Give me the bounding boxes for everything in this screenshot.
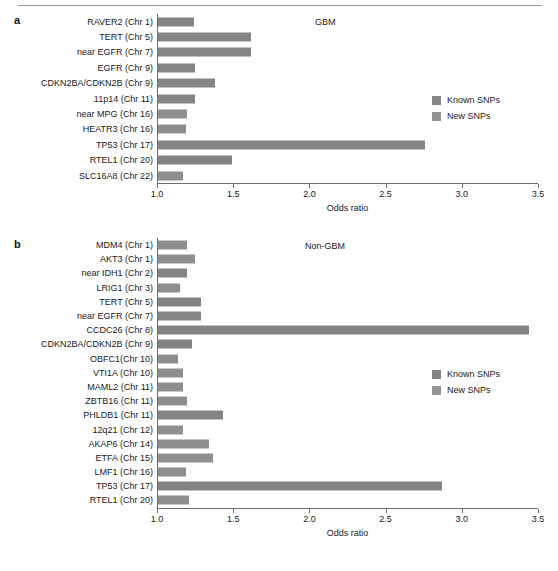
bar-row: PHLDB1 (Chr 11) bbox=[157, 408, 538, 422]
figure-root: a GBM RAVER2 (Chr 1)TERT (Chr 5)near EGF… bbox=[0, 0, 558, 571]
bar-row: RTEL1 (Chr 20) bbox=[157, 493, 538, 507]
x-axis-tick bbox=[309, 184, 310, 188]
bar-row-label: EGFR (Chr 9) bbox=[97, 63, 153, 73]
x-axis-tick bbox=[462, 184, 463, 188]
bar-row-label: 11p14 (Chr 11) bbox=[94, 94, 153, 104]
bar-row: AKAP6 (Chr 14) bbox=[157, 437, 538, 451]
bar-row: TP53 (Chr 17) bbox=[157, 479, 538, 493]
x-axis-tick-label: 1.0 bbox=[151, 189, 164, 199]
panel-b-x-axis bbox=[157, 508, 538, 509]
bar bbox=[157, 283, 180, 292]
bar bbox=[157, 48, 251, 57]
x-axis-tick-label: 1.0 bbox=[151, 514, 164, 524]
bar-row: AKT3 (Chr 1) bbox=[157, 252, 538, 266]
bar bbox=[157, 496, 189, 505]
x-axis-tick-label: 1.5 bbox=[227, 189, 240, 199]
bar-row: ETFA (Chr 15) bbox=[157, 451, 538, 465]
legend-item-new: New SNPs bbox=[432, 382, 500, 398]
bar bbox=[157, 354, 178, 363]
bar bbox=[157, 110, 187, 119]
bar-row-label: MAML2 (Chr 11) bbox=[87, 382, 153, 392]
legend-item-known: Known SNPs bbox=[432, 366, 500, 382]
bar bbox=[157, 368, 183, 377]
panel-b-legend: Known SNPs New SNPs bbox=[432, 366, 500, 398]
bar-row: RTEL1 (Chr 20) bbox=[157, 153, 538, 168]
bar-row: near EGFR (Chr 7) bbox=[157, 45, 538, 60]
x-axis-tick-label: 2.0 bbox=[303, 189, 316, 199]
bar-row-label: SLC16A8 (Chr 22) bbox=[79, 171, 153, 181]
bar-row-label: MDM4 (Chr 1) bbox=[96, 240, 153, 250]
x-axis-tick bbox=[538, 509, 539, 513]
bar-row: near IDH1 (Chr 2) bbox=[157, 266, 538, 280]
bar bbox=[157, 340, 192, 349]
bar-row-label: near MPG (Chr 16) bbox=[76, 109, 153, 119]
x-axis-title: Odds ratio bbox=[327, 203, 369, 213]
bar-row-label: PHLDB1 (Chr 11) bbox=[83, 410, 153, 420]
x-axis-tick-label: 2.5 bbox=[379, 514, 392, 524]
bar bbox=[157, 397, 187, 406]
bar bbox=[157, 468, 186, 477]
bar-row-label: TERT (Chr 5) bbox=[99, 297, 153, 307]
new-snps-swatch-icon bbox=[432, 386, 441, 395]
bar-row: LRIG1 (Chr 3) bbox=[157, 281, 538, 295]
bar bbox=[157, 79, 215, 88]
bar-row: 12q21 (Chr 12) bbox=[157, 422, 538, 436]
legend-label-known: Known SNPs bbox=[447, 95, 500, 105]
bar-row: SLC16A8 (Chr 22) bbox=[157, 168, 538, 183]
x-axis-tick bbox=[157, 184, 158, 188]
bar bbox=[157, 382, 183, 391]
x-axis-tick bbox=[309, 509, 310, 513]
bar-row: EGFR (Chr 9) bbox=[157, 60, 538, 75]
known-snps-swatch-icon bbox=[432, 370, 441, 379]
x-axis-tick-label: 3.5 bbox=[532, 189, 545, 199]
bar-row-label: CDKN2BA/CDKN2B (Chr 9) bbox=[41, 78, 153, 88]
bar bbox=[157, 326, 529, 335]
bar-row: TERT (Chr 5) bbox=[157, 29, 538, 44]
bar-row-label: AKT3 (Chr 1) bbox=[100, 254, 153, 264]
bar-row: CDKN2BA/CDKN2B (Chr 9) bbox=[157, 337, 538, 351]
x-axis-tick-label: 3.0 bbox=[456, 514, 469, 524]
bar-row-label: ZBTB16 (Chr 11) bbox=[85, 396, 153, 406]
x-axis-tick-label: 2.5 bbox=[379, 189, 392, 199]
x-axis-tick bbox=[233, 509, 234, 513]
panel-b: b Non-GBM MDM4 (Chr 1)AKT3 (Chr 1)near I… bbox=[0, 238, 558, 563]
bar bbox=[157, 425, 183, 434]
bar-row-label: CCDC26 (Chr 8) bbox=[86, 325, 153, 335]
panel-a: a GBM RAVER2 (Chr 1)TERT (Chr 5)near EGF… bbox=[0, 14, 558, 219]
bar bbox=[157, 94, 195, 103]
known-snps-swatch-icon bbox=[432, 96, 441, 105]
bar-row-label: CDKN2BA/CDKN2B (Chr 9) bbox=[41, 339, 153, 349]
bar bbox=[157, 269, 187, 278]
bar-row-label: RTEL1 (Chr 20) bbox=[90, 155, 153, 165]
bar bbox=[157, 241, 187, 250]
bar-row-label: RTEL1 (Chr 20) bbox=[90, 495, 153, 505]
bar-row: CDKN2BA/CDKN2B (Chr 9) bbox=[157, 76, 538, 91]
bar-row: LMF1 (Chr 16) bbox=[157, 465, 538, 479]
bar bbox=[157, 156, 232, 165]
x-axis-tick bbox=[233, 184, 234, 188]
x-axis-tick-label: 1.5 bbox=[227, 514, 240, 524]
x-axis-tick bbox=[538, 184, 539, 188]
bar bbox=[157, 482, 442, 491]
bar-row: CCDC26 (Chr 8) bbox=[157, 323, 538, 337]
bar-row-label: TERT (Chr 5) bbox=[99, 32, 153, 42]
bar-row: MDM4 (Chr 1) bbox=[157, 238, 538, 252]
bar-row-label: OBFC1(Chr 10) bbox=[90, 354, 153, 364]
bar-row-label: VTI1A (Chr 10) bbox=[93, 368, 153, 378]
panel-a-y-axis bbox=[157, 14, 158, 183]
bar bbox=[157, 63, 195, 72]
bar bbox=[157, 411, 223, 420]
x-axis-tick-label: 2.0 bbox=[303, 514, 316, 524]
bar-row-label: RAVER2 (Chr 1) bbox=[87, 17, 153, 27]
bar bbox=[157, 171, 183, 180]
panel-b-y-axis bbox=[157, 238, 158, 508]
bar-row-label: near IDH1 (Chr 2) bbox=[81, 268, 153, 278]
legend-item-known: Known SNPs bbox=[432, 92, 500, 108]
bar bbox=[157, 17, 194, 26]
header-rule bbox=[18, 5, 542, 6]
panel-a-legend: Known SNPs New SNPs bbox=[432, 92, 500, 124]
bar-row-label: HEATR3 (Chr 16) bbox=[83, 124, 153, 134]
bar-row: near EGFR (Chr 7) bbox=[157, 309, 538, 323]
x-axis-tick bbox=[157, 509, 158, 513]
bar-row-label: near EGFR (Chr 7) bbox=[77, 311, 153, 321]
